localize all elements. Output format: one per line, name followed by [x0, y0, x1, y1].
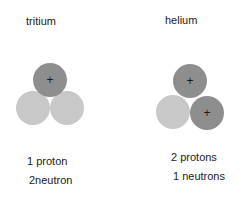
- helium-neutrons-label: 1 neutrons: [173, 170, 225, 182]
- plus-icon: +: [186, 74, 193, 88]
- helium-title: helium: [165, 14, 197, 26]
- plus-icon: +: [46, 73, 53, 87]
- helium-protons-label: 2 protons: [171, 151, 217, 163]
- tritium-neutrons-label: 2neutron: [29, 174, 72, 186]
- neutron-circle: [156, 95, 190, 129]
- tritium-nucleus: +: [16, 63, 84, 125]
- tritium-title: tritium: [26, 15, 56, 27]
- plus-icon: +: [203, 106, 210, 120]
- helium-nucleus: + +: [156, 64, 224, 130]
- tritium-protons-label: 1 proton: [27, 155, 67, 167]
